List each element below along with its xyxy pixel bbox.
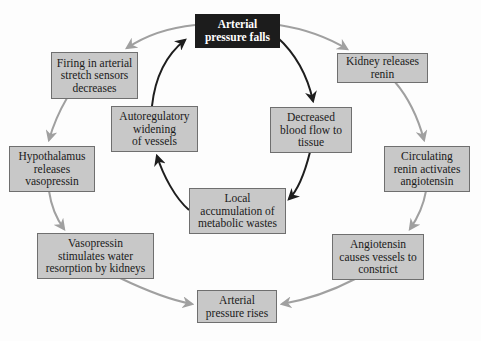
arrow-circulating-to-angiotensin bbox=[410, 191, 426, 229]
node-kidney-releases-renin: Kidney releases renin bbox=[337, 53, 428, 83]
arrow-firing-to-hypothalamus bbox=[49, 98, 67, 140]
node-arterial-pressure-falls: Arterial pressure falls bbox=[195, 14, 280, 48]
blood-pressure-regulation-diagram: Arterial pressure falls Firing in arteri… bbox=[0, 0, 481, 341]
arrow-start-to-kidney bbox=[279, 25, 347, 49]
node-hypothalamus-releases-vasopressin: Hypothalamus releases vasopressin bbox=[9, 146, 95, 192]
arrow-autoreg-to-start bbox=[152, 40, 185, 106]
node-firing-stretch-sensors: Firing in arterial stretch sensors decre… bbox=[51, 52, 138, 99]
node-decreased-blood-flow: Decreased blood flow to tissue bbox=[270, 107, 352, 153]
arrow-local-to-autoreg bbox=[157, 156, 189, 210]
arrow-angiotensin-to-end bbox=[282, 279, 355, 304]
node-circulating-renin: Circulating renin activates angiotensin bbox=[384, 146, 470, 192]
arrow-hypothalamus-to-vasopressin bbox=[49, 191, 64, 229]
node-local-accumulation: Local accumulation of metabolic wastes bbox=[189, 188, 286, 234]
arrow-kidney-to-circulating bbox=[395, 82, 424, 140]
arrow-start-to-firing bbox=[127, 25, 195, 48]
arrow-start-to-decreased bbox=[277, 37, 313, 101]
node-angiotensin-constrict: Angiotensin causes vessels to constrict bbox=[332, 234, 424, 280]
arrow-decreased-to-local bbox=[289, 152, 310, 199]
node-autoregulatory-widening: Autoregulatory widening of vessels bbox=[111, 106, 198, 152]
arrow-vasopressin-to-end bbox=[120, 278, 192, 304]
node-vasopressin-stimulates: Vasopressin stimulates water resorption … bbox=[37, 233, 154, 279]
node-arterial-pressure-rises: Arterial pressure rises bbox=[197, 290, 277, 323]
